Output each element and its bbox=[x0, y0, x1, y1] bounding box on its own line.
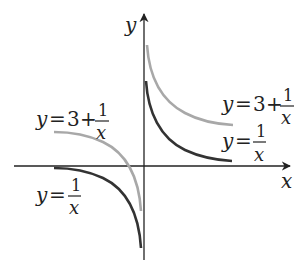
equals: = bbox=[235, 92, 252, 116]
denominator: x bbox=[96, 122, 106, 143]
lhs: y bbox=[221, 129, 234, 153]
curve-reciprocal-left bbox=[54, 168, 141, 248]
curve-3-plus-reciprocal-right bbox=[147, 45, 233, 125]
hyperbola-graph: x y y = 3 + 1 x y = 1 x y = 3 + 1 x y = … bbox=[0, 0, 302, 260]
denominator: x bbox=[69, 197, 79, 218]
equals: = bbox=[49, 107, 66, 131]
label-right-reciprocal: y = 1 x bbox=[221, 122, 266, 165]
label-left-3-plus-reciprocal: y = 3 + 1 x bbox=[35, 101, 109, 143]
x-axis-label: x bbox=[281, 169, 292, 193]
constant: 3 bbox=[67, 107, 80, 131]
y-axis-label: y bbox=[124, 13, 137, 37]
denominator: x bbox=[281, 107, 291, 128]
denominator: x bbox=[254, 144, 264, 165]
numerator: 1 bbox=[256, 122, 266, 141]
lhs: y bbox=[35, 183, 48, 207]
label-left-reciprocal: y = 1 x bbox=[35, 176, 81, 218]
equals: = bbox=[49, 183, 66, 207]
constant: 3 bbox=[253, 92, 266, 116]
numerator: 1 bbox=[71, 176, 81, 195]
numerator: 1 bbox=[283, 86, 293, 105]
plus: + bbox=[80, 107, 97, 131]
equals: = bbox=[235, 129, 252, 153]
numerator: 1 bbox=[98, 101, 108, 120]
lhs: y bbox=[35, 107, 48, 131]
curve-reciprocal-right bbox=[146, 81, 232, 161]
lhs: y bbox=[221, 92, 234, 116]
